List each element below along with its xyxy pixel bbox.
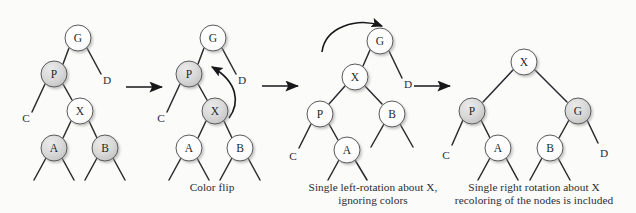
edge-A-leaf-left xyxy=(478,158,490,180)
caption-color-flip: Color flip xyxy=(152,181,272,194)
edge-B-leaf-left xyxy=(220,158,232,180)
node-B[interactable]: B xyxy=(227,135,253,161)
node-G-label: G xyxy=(574,105,582,117)
node-G-label: G xyxy=(376,35,384,47)
node-G[interactable]: G xyxy=(367,28,393,54)
node-G-label: G xyxy=(74,32,82,44)
tree-step-4-nodes: X P G A B xyxy=(459,49,591,161)
node-A-label: A xyxy=(185,142,194,154)
edge-G-D xyxy=(87,48,101,74)
node-B-label: B xyxy=(236,142,244,154)
edge-label-C: C xyxy=(442,149,450,161)
tree-step-4: X P G A B C D xyxy=(442,49,608,180)
node-B-label: B xyxy=(388,108,396,120)
node-G[interactable]: G xyxy=(565,98,591,124)
node-P[interactable]: P xyxy=(41,61,67,87)
edge-A-leaf-left xyxy=(34,158,46,180)
node-X-label: X xyxy=(351,71,360,83)
edge-B-leaf-right xyxy=(400,124,413,147)
edge-P-A xyxy=(481,120,490,138)
edge-B-leaf-left xyxy=(371,124,384,147)
edge-X-A xyxy=(63,121,71,138)
edge-label-C: C xyxy=(157,112,165,124)
node-B-label: B xyxy=(101,142,109,154)
tree-step-4-edges xyxy=(452,70,598,180)
edge-X-G xyxy=(535,70,567,102)
node-A[interactable]: A xyxy=(485,135,511,161)
node-P-label: P xyxy=(469,105,475,117)
node-B-label: B xyxy=(546,142,554,154)
node-B[interactable]: B xyxy=(379,101,405,127)
node-X[interactable]: X xyxy=(202,98,228,124)
node-B[interactable]: B xyxy=(537,135,563,161)
edge-label-D: D xyxy=(404,78,412,90)
edge-G-P xyxy=(198,48,204,64)
tree-step-3-nodes: G X P B A xyxy=(307,28,405,163)
edge-G-P xyxy=(63,48,69,64)
node-X[interactable]: X xyxy=(511,49,537,75)
node-P[interactable]: P xyxy=(459,98,485,124)
node-G[interactable]: G xyxy=(65,25,91,51)
edge-P-C xyxy=(452,120,463,145)
node-X-label: X xyxy=(520,56,529,68)
node-P[interactable]: P xyxy=(307,101,333,127)
node-P-label: P xyxy=(51,68,57,80)
node-A[interactable]: A xyxy=(176,135,202,161)
tree-step-2: G P X A B D C xyxy=(157,25,260,180)
caption-right-rotation: Single right rotation about X recoloring… xyxy=(432,181,636,207)
edge-label-D: D xyxy=(103,74,111,86)
edge-label-D: D xyxy=(600,147,608,159)
edge-G-X xyxy=(363,50,370,66)
node-A-label: A xyxy=(343,144,352,156)
edge-A-leaf-left xyxy=(328,160,339,180)
edge-B-leaf-right xyxy=(558,158,570,180)
edge-X-P xyxy=(483,70,513,102)
edge-X-P xyxy=(329,86,345,104)
edge-B-leaf-left xyxy=(530,158,542,180)
tree-step-1-nodes: G P X A B xyxy=(41,25,118,161)
edge-P-C xyxy=(167,84,180,112)
edge-P-C xyxy=(32,84,45,112)
node-X[interactable]: X xyxy=(342,64,368,90)
edge-G-D xyxy=(222,48,236,74)
node-P[interactable]: P xyxy=(176,61,202,87)
edge-B-leaf-right xyxy=(113,158,125,180)
edge-B-leaf-right xyxy=(248,158,260,180)
edge-X-A xyxy=(198,121,206,138)
node-A-label: A xyxy=(50,142,59,154)
edge-label-C: C xyxy=(289,150,297,162)
edge-B-leaf-left xyxy=(85,158,97,180)
node-X[interactable]: X xyxy=(67,98,93,124)
edge-X-B xyxy=(89,121,97,138)
node-P-label: P xyxy=(317,108,323,120)
node-A[interactable]: A xyxy=(334,137,360,163)
node-A[interactable]: A xyxy=(41,135,67,161)
tree-step-2-nodes: G P X A B xyxy=(176,25,253,161)
node-A-label: A xyxy=(494,142,503,154)
edge-A-leaf-right xyxy=(197,158,209,180)
node-G[interactable]: G xyxy=(200,25,226,51)
edge-A-leaf-right xyxy=(506,158,518,180)
tree-step-1: G P X A B D C xyxy=(22,25,125,180)
node-X-label: X xyxy=(76,105,85,117)
edge-P-A xyxy=(329,124,338,140)
edge-label-C: C xyxy=(22,112,30,124)
edge-A-leaf-right xyxy=(355,160,367,180)
edge-X-B xyxy=(224,121,232,138)
node-P-label: P xyxy=(186,68,192,80)
edge-P-C xyxy=(299,124,311,148)
edge-X-B xyxy=(365,86,382,104)
node-X-label: X xyxy=(211,105,220,117)
tree-step-3: G X P B A D C xyxy=(289,23,413,180)
node-B[interactable]: B xyxy=(92,135,118,161)
node-G-label: G xyxy=(209,32,217,44)
edge-G-D xyxy=(389,51,402,78)
edge-G-D xyxy=(587,120,598,143)
edge-A-leaf-left xyxy=(169,158,181,180)
figure-container: G P X A B D C xyxy=(0,0,636,213)
edge-P-X xyxy=(198,84,207,100)
edge-G-B xyxy=(559,120,569,138)
edge-P-X xyxy=(63,84,72,100)
edge-label-D: D xyxy=(238,74,246,86)
edge-A-leaf-right xyxy=(62,158,74,180)
